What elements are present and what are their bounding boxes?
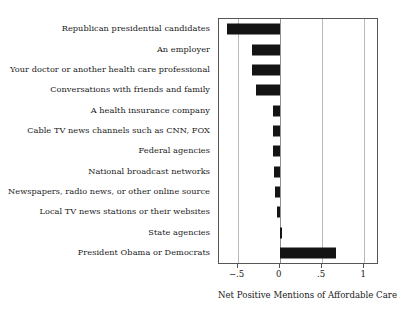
- x-tick: [321, 264, 322, 268]
- x-tick: [237, 264, 238, 268]
- gridline-0p5: [322, 19, 323, 263]
- category-label: Conversations with friends and family: [50, 85, 210, 94]
- bar: [280, 247, 336, 258]
- bar: [252, 44, 280, 55]
- gridline-neg0p5: [238, 19, 239, 263]
- bar: [252, 64, 280, 75]
- x-tick: [279, 264, 280, 268]
- x-tick-label: −.5: [229, 269, 244, 279]
- x-tick-label: .5: [317, 269, 325, 279]
- bar: [280, 227, 282, 238]
- category-label: Republican presidential candidates: [62, 24, 210, 33]
- plot-area: [218, 18, 378, 264]
- category-label: President Obama or Democrats: [78, 247, 210, 256]
- category-label: Your doctor or another health care profe…: [10, 64, 210, 73]
- category-label: State agencies: [148, 227, 210, 236]
- category-label: An employer: [157, 44, 210, 53]
- category-axis: Republican presidential candidatesAn emp…: [0, 18, 214, 264]
- category-label: Cable TV news channels such as CNN, FOX: [27, 125, 210, 134]
- gridline-1: [364, 19, 365, 263]
- x-tick-label: 1: [361, 269, 366, 279]
- x-axis: −.50.51: [218, 264, 378, 286]
- category-label: National broadcast networks: [88, 166, 210, 175]
- bar: [277, 207, 280, 218]
- x-axis-title: Net Positive Mentions of Affordable Care…: [218, 290, 378, 301]
- bar: [273, 105, 280, 116]
- bar: [273, 146, 280, 157]
- bar: [273, 125, 280, 136]
- category-label: Federal agencies: [139, 146, 210, 155]
- category-label: Local TV news stations or their websites: [40, 207, 211, 216]
- bar: [275, 186, 280, 197]
- bar: [274, 166, 280, 177]
- x-tick-label: 0: [276, 269, 281, 279]
- bar: [227, 24, 279, 35]
- bar-chart: Republican presidential candidatesAn emp…: [0, 0, 400, 313]
- category-label: A health insurance company: [91, 105, 210, 114]
- category-label: Newspapers, radio news, or other online …: [8, 186, 210, 195]
- bar: [256, 85, 280, 96]
- x-tick: [363, 264, 364, 268]
